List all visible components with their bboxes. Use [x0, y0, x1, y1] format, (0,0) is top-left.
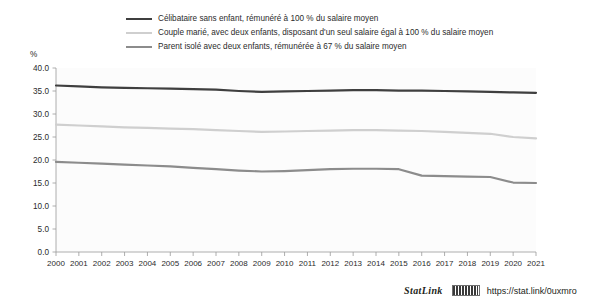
y-axis-tick-label: 5.0 [38, 225, 50, 234]
legend-item-celibataire: Célibataire sans enfant, rémunéré à 100 … [126, 12, 566, 26]
legend-item-couple-marie: Couple marié, avec deux enfants, disposa… [126, 26, 566, 40]
x-axis-tick-label: 2002 [93, 259, 111, 268]
x-axis-tick-label: 2005 [161, 259, 179, 268]
x-axis-tick-label: 2017 [436, 259, 454, 268]
x-axis-tick-label: 2012 [321, 259, 339, 268]
y-axis-tick-label: 10.0 [33, 202, 49, 211]
statlink-footer: StatLink https://stat.link/0uxmro [404, 285, 577, 296]
x-axis-tick-label: 2008 [230, 259, 248, 268]
legend-swatch-parent-isole [126, 46, 152, 48]
y-axis-unit-label: % [30, 50, 37, 59]
legend-swatch-couple-marie [126, 32, 152, 34]
x-axis-tick-label: 2020 [504, 259, 522, 268]
x-axis-tick-label: 2018 [459, 259, 477, 268]
statlink-wordmark: StatLink [404, 285, 443, 296]
statlink-url[interactable]: https://stat.link/0uxmro [487, 286, 577, 296]
y-axis-tick-label: 25.0 [33, 133, 49, 142]
x-axis-tick-label: 2010 [276, 259, 294, 268]
y-axis-tick-label: 30.0 [33, 110, 49, 119]
x-axis-tick-label: 2011 [299, 259, 317, 268]
x-axis-tick-label: 2003 [116, 259, 134, 268]
legend-label-parent-isole: Parent isolé avec deux enfants, rémunéré… [158, 42, 407, 52]
y-axis-tick-label: 0.0 [38, 248, 50, 257]
x-axis-tick-label: 2021 [527, 259, 545, 268]
x-axis-tick-label: 2004 [139, 259, 157, 268]
plot-background [56, 68, 536, 252]
y-axis-tick-label: 35.0 [33, 87, 49, 96]
x-axis-tick-label: 2006 [184, 259, 202, 268]
y-axis-tick-label: 20.0 [33, 156, 49, 165]
chart-container: Célibataire sans enfant, rémunéré à 100 … [0, 0, 616, 306]
legend-item-parent-isole: Parent isolé avec deux enfants, rémunéré… [126, 40, 566, 54]
x-axis-tick-label: 2000 [47, 259, 65, 268]
x-axis-tick-label: 2015 [390, 259, 408, 268]
legend-label-celibataire: Célibataire sans enfant, rémunéré à 100 … [158, 14, 378, 24]
statlink-barcode-icon [452, 285, 480, 296]
x-axis-tick-label: 2019 [481, 259, 499, 268]
x-axis-tick-label: 2009 [253, 259, 271, 268]
y-axis-tick-label: 15.0 [33, 179, 49, 188]
x-axis-tick-label: 2013 [344, 259, 362, 268]
x-axis-tick-label: 2007 [207, 259, 225, 268]
chart-legend: Célibataire sans enfant, rémunéré à 100 … [126, 12, 566, 54]
x-axis-tick-label: 2014 [367, 259, 385, 268]
x-axis-tick-label: 2001 [70, 259, 88, 268]
legend-label-couple-marie: Couple marié, avec deux enfants, disposa… [158, 28, 493, 38]
y-axis-tick-label: 40.0 [33, 64, 49, 73]
legend-swatch-celibataire [126, 18, 152, 20]
x-axis-tick-label: 2016 [413, 259, 431, 268]
